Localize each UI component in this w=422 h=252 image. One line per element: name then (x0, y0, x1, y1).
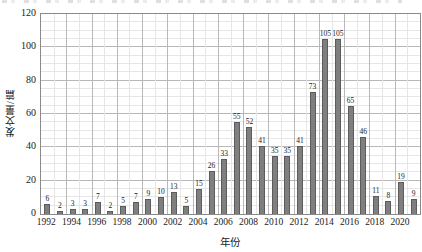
minor-gridline-v (306, 14, 307, 214)
minor-gridline-v (256, 14, 257, 214)
minor-gridline-v (382, 14, 383, 214)
y-axis-title: 发文量/篇 (3, 89, 18, 137)
x-tick-label: 1998 (113, 217, 132, 228)
bar-2010 (272, 156, 278, 214)
minor-gridline-v (231, 14, 232, 214)
bar-2009 (259, 146, 265, 214)
minor-gridline-v (281, 14, 282, 214)
bar-2019 (385, 201, 391, 214)
minor-gridline-h (41, 121, 420, 122)
x-tick-label: 2012 (289, 217, 308, 228)
major-gridline-v (142, 14, 143, 214)
minor-gridline-v (407, 14, 408, 214)
major-gridline-h (41, 80, 420, 81)
minor-gridline-v (129, 14, 130, 214)
major-gridline-v (66, 14, 67, 214)
minor-gridline-h (41, 30, 420, 31)
bar-value-label: 2 (109, 202, 113, 210)
y-tick-label: 80 (6, 75, 36, 85)
x-tick-label: 2006 (214, 217, 233, 228)
x-axis-title: 年份 (220, 234, 240, 249)
major-gridline-v (369, 14, 370, 214)
bar-2003 (183, 206, 189, 214)
minor-gridline-h (41, 105, 420, 106)
bar-2002 (171, 192, 177, 214)
major-gridline-h (41, 113, 420, 114)
bar-1995 (82, 209, 88, 214)
bar-value-label: 52 (246, 118, 254, 126)
bar-value-label: 6 (45, 195, 49, 203)
minor-gridline-h (41, 88, 420, 89)
bar-value-label: 73 (309, 83, 317, 91)
bar-value-label: 65 (347, 97, 355, 105)
major-gridline-v (193, 14, 194, 214)
major-gridline-v (294, 14, 295, 214)
bar-value-label: 41 (258, 137, 266, 145)
x-tick-label: 1994 (62, 217, 81, 228)
bar-1999 (133, 202, 139, 214)
major-gridline-v (92, 14, 93, 214)
x-tick-label: 2008 (239, 217, 258, 228)
minor-gridline-v (332, 14, 333, 214)
major-gridline-v (268, 14, 269, 214)
bar-1998 (120, 206, 126, 214)
bar-2011 (284, 156, 290, 214)
bar-2006 (221, 159, 227, 214)
major-gridline-v (395, 14, 396, 214)
minor-gridline-v (79, 14, 80, 214)
bar-1993 (57, 211, 63, 214)
bar-value-label: 9 (147, 190, 151, 198)
bar-value-label: 11 (372, 187, 379, 195)
minor-gridline-h (41, 96, 420, 97)
bar-value-label: 35 (284, 147, 292, 155)
bar-value-label: 10 (157, 188, 165, 196)
bar-2021 (411, 199, 417, 214)
bar-value-label: 5 (121, 197, 125, 205)
bar-2016 (348, 106, 354, 214)
minor-gridline-v (155, 14, 156, 214)
bar-value-label: 19 (397, 173, 405, 181)
bar-1994 (70, 209, 76, 214)
bar-value-label: 105 (332, 30, 343, 38)
major-gridline-v (344, 14, 345, 214)
major-gridline-v (319, 14, 320, 214)
x-tick-label: 2002 (163, 217, 182, 228)
bar-2020 (398, 182, 404, 214)
y-tick-label: 20 (6, 175, 36, 185)
bar-2013 (310, 92, 316, 214)
bar-2005 (209, 171, 215, 214)
bar-2001 (158, 197, 164, 214)
x-tick-label: 2018 (365, 217, 384, 228)
minor-gridline-h (41, 21, 420, 22)
bar-2008 (246, 127, 252, 214)
major-gridline-v (243, 14, 244, 214)
chart-figure: 6233725791013515263355524135354173105105… (0, 0, 422, 252)
bar-value-label: 55 (233, 113, 241, 121)
y-tick-label: 120 (6, 8, 36, 18)
major-gridline-v (117, 14, 118, 214)
minor-gridline-v (54, 14, 55, 214)
major-gridline-h (41, 46, 420, 47)
bar-2015 (335, 39, 341, 214)
bar-2004 (196, 189, 202, 214)
major-gridline-v (167, 14, 168, 214)
x-tick-label: 2016 (340, 217, 359, 228)
bar-value-label: 105 (320, 30, 331, 38)
bar-2012 (297, 146, 303, 214)
x-tick-label: 2014 (315, 217, 334, 228)
y-tick-label: 40 (6, 141, 36, 151)
bar-value-label: 9 (412, 190, 416, 198)
x-tick-label: 1992 (37, 217, 56, 228)
bar-1996 (95, 202, 101, 214)
bar-value-label: 26 (208, 162, 216, 170)
bar-value-label: 2 (58, 202, 62, 210)
y-tick-label: 0 (6, 208, 36, 218)
bar-value-label: 41 (296, 137, 304, 145)
bar-value-label: 33 (220, 150, 228, 158)
minor-gridline-h (41, 38, 420, 39)
minor-gridline-h (41, 71, 420, 72)
bar-value-label: 13 (170, 183, 178, 191)
bar-1992 (44, 204, 50, 214)
bar-value-label: 5 (184, 197, 188, 205)
minor-gridline-v (357, 14, 358, 214)
